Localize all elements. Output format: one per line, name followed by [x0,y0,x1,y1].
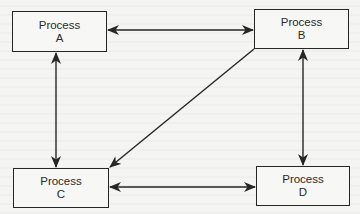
process-a-letter: A [56,32,64,45]
process-c-box: Process C [13,168,109,208]
process-a-title: Process [39,19,81,32]
process-a-box: Process A [12,11,107,52]
process-d-box: Process D [256,166,350,206]
edge-b-to-c-arrow [110,49,254,167]
process-b-title: Process [281,16,323,29]
process-b-box: Process B [254,9,349,49]
process-d-title: Process [282,173,324,186]
process-c-letter: C [57,188,65,201]
process-c-title: Process [40,175,82,188]
process-d-letter: D [299,186,307,199]
process-diagram: Process A Process B Process C Process D [0,0,360,214]
process-b-letter: B [298,29,306,42]
